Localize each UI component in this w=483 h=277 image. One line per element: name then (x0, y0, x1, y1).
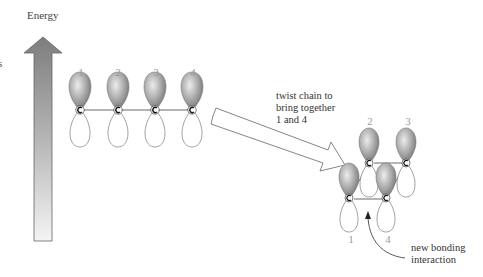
annotation-line-2: interaction (411, 254, 466, 266)
linear-chain-orbitals (69, 72, 203, 147)
diagram-graphics (0, 0, 483, 277)
clipped-edge-text: s (0, 57, 2, 69)
p-orbital-4-twisted (376, 163, 396, 232)
p-orbital-3-twisted (396, 128, 416, 197)
orbital-label-3: 3 (150, 66, 162, 78)
twisted-chain-orbitals (339, 128, 416, 232)
p-orbital-2-twisted (359, 128, 379, 197)
p-orbital-1 (69, 72, 91, 147)
orbital-label-2: 2 (112, 66, 124, 78)
twist-caption-line-1: twist chain to (276, 90, 335, 102)
p-orbital-1-twisted (339, 163, 359, 232)
new-bonding-annotation: new bonding interaction (411, 242, 466, 266)
p-orbital-3 (144, 72, 166, 147)
twist-caption: twist chain to bring together 1 and 4 (276, 90, 335, 126)
orbital-label-1: 1 (75, 66, 87, 78)
twisted-label-4: 4 (382, 233, 394, 245)
twist-caption-line-2: bring together (276, 102, 335, 114)
twisted-label-3: 3 (402, 115, 414, 127)
energy-axis-label: Energy (27, 9, 59, 21)
twisted-label-2: 2 (364, 115, 376, 127)
p-orbital-4 (181, 72, 203, 147)
orbital-label-4: 4 (187, 66, 199, 78)
orbital-diagram: Energy s 1 2 3 4 twist chain to bring to… (0, 0, 483, 277)
p-orbital-2 (107, 72, 129, 147)
twist-caption-line-3: 1 and 4 (276, 114, 335, 126)
energy-arrow-icon (24, 37, 62, 241)
twisted-label-1: 1 (345, 233, 357, 245)
annotation-line-1: new bonding (411, 242, 466, 254)
